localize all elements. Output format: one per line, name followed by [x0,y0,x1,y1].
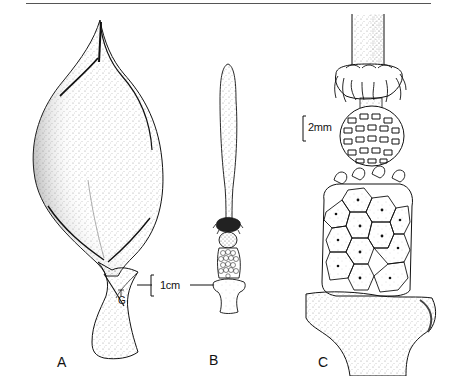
scale-label-2mm: 2mm [308,122,332,133]
panel-c-detail [306,14,436,376]
panel-a-spathe [33,20,163,359]
scale-label-1cm: 1cm [160,280,180,291]
botanical-plate: A B C 1cm 2mm G [0,0,451,376]
panel-label-a: A [57,355,66,369]
panel-b-spadix [213,64,245,314]
panel-label-c: C [318,355,328,369]
illustration [0,0,451,376]
panel-label-b: B [209,353,218,367]
scale-bar-2mm [303,116,306,141]
annotation-g-mark: G [118,296,125,306]
